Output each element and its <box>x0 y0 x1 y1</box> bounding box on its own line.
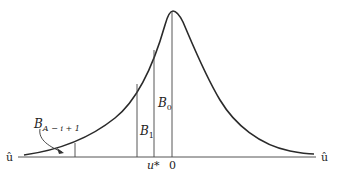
bk-label: BA − i + 1 <box>33 117 80 133</box>
peaked-curve <box>24 11 314 155</box>
b1-label: B1 <box>139 124 154 140</box>
axis-right-label: û <box>321 151 328 164</box>
u-star-label: u* <box>147 159 160 172</box>
zero-label: 0 <box>169 159 176 172</box>
axis-left-label: û <box>6 151 13 164</box>
density-diagram: û û u* 0 B0 B1 BA − i + 1 <box>0 0 337 178</box>
arrow-head-icon <box>57 148 64 154</box>
b0-label: B0 <box>157 96 172 112</box>
